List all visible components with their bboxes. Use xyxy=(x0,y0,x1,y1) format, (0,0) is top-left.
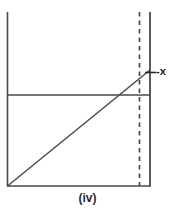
diagonal-ramp-line xyxy=(8,70,151,186)
figure-container: -x (iv) xyxy=(0,0,175,212)
figure-caption: (iv) xyxy=(0,192,175,205)
figure-diagram xyxy=(0,0,175,212)
neg-x-axis-label: -x xyxy=(156,66,166,77)
